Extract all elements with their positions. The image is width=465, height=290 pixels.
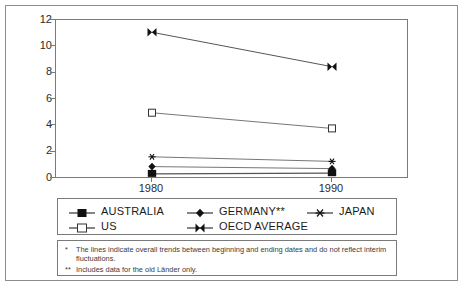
series-marker-japan-1980 xyxy=(149,154,156,160)
plot-area xyxy=(55,19,408,178)
legend-item-germany[interactable]: GERMANY** xyxy=(186,203,285,219)
y-tick-label-6: 6 xyxy=(22,93,52,104)
series-line-oecd-average xyxy=(152,32,332,66)
legend-item-oecd-average[interactable]: OECD AVERAGE xyxy=(186,218,308,234)
footnotes: * The lines indicate overall trends betw… xyxy=(57,240,397,276)
legend-label-oecd-average: OECD AVERAGE xyxy=(219,220,308,232)
x-tick-label-1990: 1990 xyxy=(301,183,361,194)
legend: AUSTRALIA GERMANY** xyxy=(57,198,397,235)
series-marker-oecd-average-1990 xyxy=(328,62,337,71)
legend-label-japan: JAPAN xyxy=(339,205,375,217)
footnote-1-text: The lines indicate overall trends betwee… xyxy=(76,245,390,263)
series-marker-australia-1990 xyxy=(328,169,336,176)
legend-item-us[interactable]: US xyxy=(68,218,117,234)
open-square-icon xyxy=(68,220,96,232)
legend-item-australia[interactable]: AUSTRALIA xyxy=(68,203,164,219)
y-axis: 12 10 8 6 4 2 0 xyxy=(18,0,52,200)
diamond-icon xyxy=(186,205,214,217)
y-tick-label-12: 12 xyxy=(22,14,52,25)
series-line-germany xyxy=(152,167,332,169)
legend-label-germany: GERMANY** xyxy=(219,205,285,217)
footnote-1: * The lines indicate overall trends betw… xyxy=(65,245,390,263)
footnote-1-marker: * xyxy=(65,245,76,263)
bowtie-icon xyxy=(186,220,214,232)
footnote-2-marker: ** xyxy=(65,265,76,274)
series-marker-us-1980 xyxy=(149,109,156,116)
legend-label-us: US xyxy=(101,220,117,232)
legend-row-2: US OECD AVERAGE xyxy=(58,218,396,234)
footnote-2-text: Includes data for the old Länder only. xyxy=(76,265,390,274)
series-marker-australia-1980 xyxy=(148,170,156,177)
footnote-2: ** Includes data for the old Länder only… xyxy=(65,265,390,274)
y-tick-label-10: 10 xyxy=(22,40,52,51)
x-tick-label-1980: 1980 xyxy=(121,183,181,194)
legend-label-australia: AUSTRALIA xyxy=(101,205,164,217)
y-tick-label-4: 4 xyxy=(22,119,52,130)
y-tick-label-2: 2 xyxy=(22,145,52,156)
legend-item-japan[interactable]: JAPAN xyxy=(306,203,375,219)
series-line-japan xyxy=(152,157,332,162)
legend-row-1: AUSTRALIA GERMANY** xyxy=(58,203,396,219)
series-marker-japan-1990 xyxy=(329,159,336,165)
y-tick-label-8: 8 xyxy=(22,66,52,77)
asterisk-icon xyxy=(306,205,334,217)
series-line-australia xyxy=(152,173,332,174)
series-line-us xyxy=(152,113,332,129)
series-plot xyxy=(56,20,409,179)
y-tick-label-0: 0 xyxy=(22,172,52,183)
series-marker-germany-1980 xyxy=(148,163,155,171)
series-marker-us-1990 xyxy=(329,125,336,132)
series-marker-oecd-average-1980 xyxy=(148,28,157,37)
figure-container: 12 10 8 6 4 2 0 xyxy=(0,0,465,290)
filled-square-icon xyxy=(68,205,96,217)
